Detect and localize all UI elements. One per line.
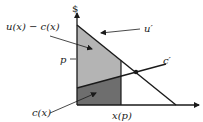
surplus-label: u(x) − c(x) [6,21,60,32]
marginal-cost-label: c′ [163,55,172,66]
surplus-diagram: $ u(x) − c(x) u′ p c′ c(x) x(p) [0,0,203,122]
cost-label: c(x) [32,107,51,118]
quantity-label: x(p) [112,110,132,121]
marginal-utility-arrow [101,29,140,33]
price-label: p [60,54,67,65]
equilibrium-point [134,70,138,74]
marginal-utility-label: u′ [144,23,153,34]
y-axis-label: $ [72,3,78,14]
